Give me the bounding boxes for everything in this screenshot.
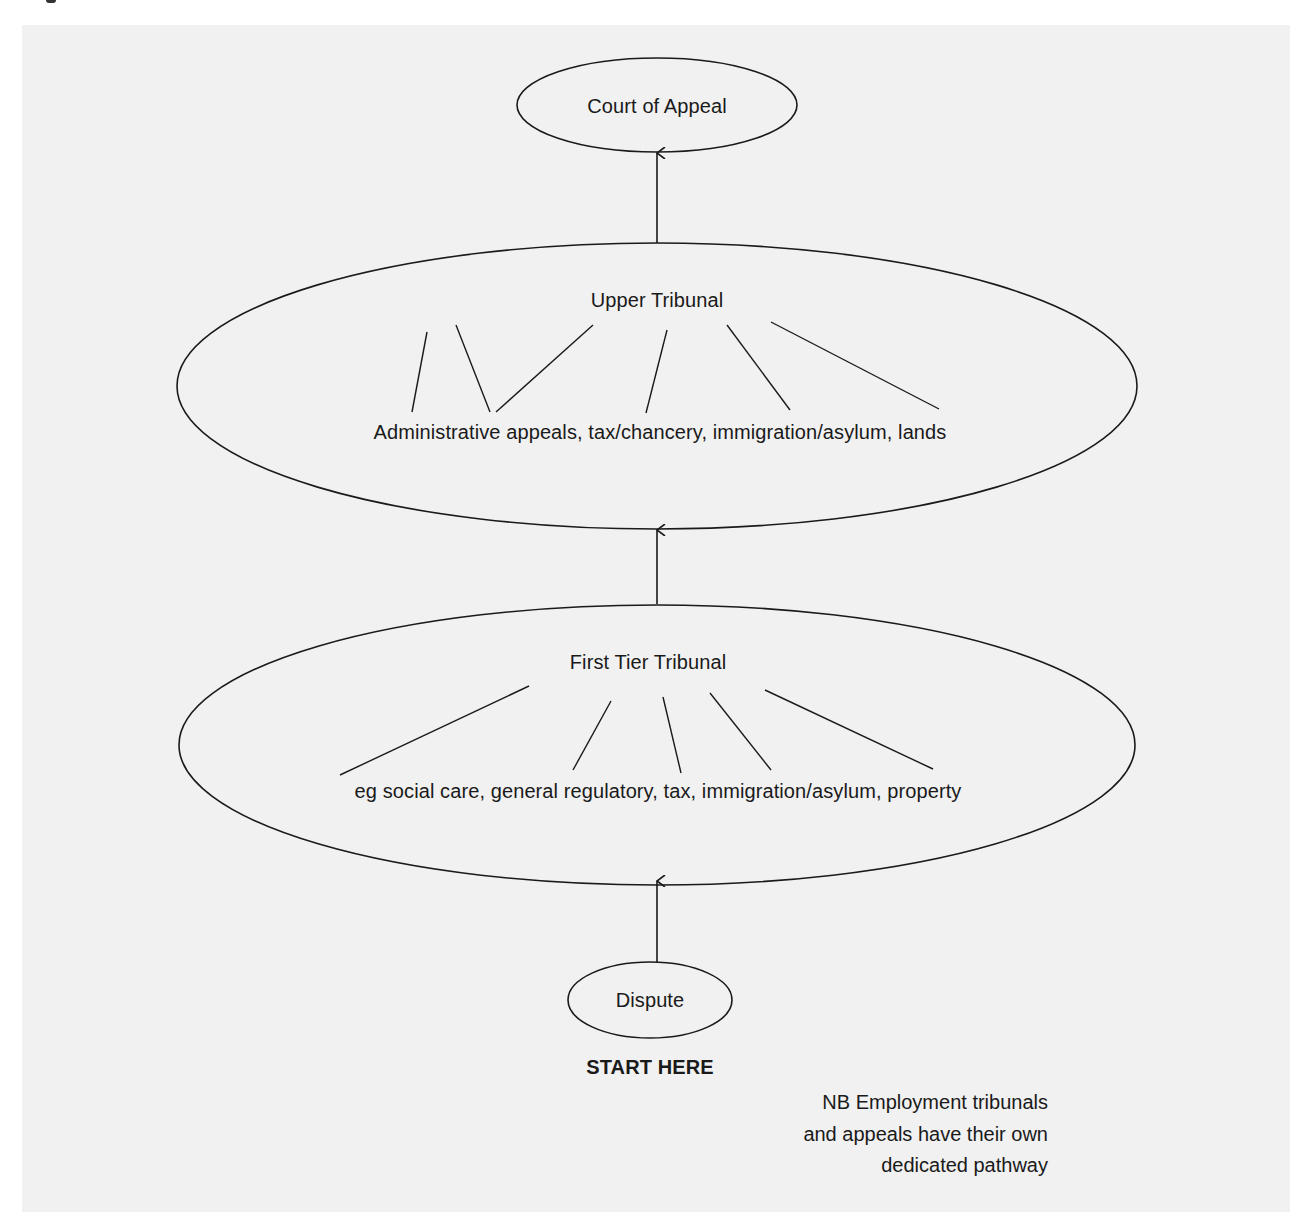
upper-tribunal-node [177,243,1137,529]
note-line: NB Employment tribunals [803,1087,1048,1119]
upper-tribunal-label: Upper Tribunal [591,289,724,312]
diagram-canvas [0,0,1315,1232]
upper-tribunal-chambers: Administrative appeals, tax/chancery, im… [374,421,947,444]
upper-tribunal-branch-lines [412,325,593,412]
first-tier-tribunal-label: First Tier Tribunal [570,651,726,674]
first-tier-tribunal-chambers: eg social care, general regulatory, tax,… [355,780,962,803]
employment-note: NB Employment tribunals and appeals have… [803,1087,1048,1182]
dispute-label: Dispute [616,989,685,1012]
upper-tribunal-branch-lines-right [646,322,939,413]
first-tier-branch-lines [340,686,933,775]
court-of-appeal-label: Court of Appeal [587,95,726,118]
start-here-label: START HERE [586,1056,713,1079]
note-line: and appeals have their own [803,1119,1048,1151]
first-tier-tribunal-node [179,605,1135,885]
note-line: dedicated pathway [803,1150,1048,1182]
